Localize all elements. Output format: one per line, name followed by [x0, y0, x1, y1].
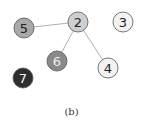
node-5: 5 — [14, 18, 34, 38]
node-label: 4 — [104, 61, 112, 76]
node-2: 2 — [68, 12, 88, 32]
graph-diagram: 523647 — [0, 0, 143, 122]
figure-caption: (b) — [0, 106, 143, 117]
node-label: 3 — [119, 15, 127, 30]
node-4: 4 — [98, 58, 118, 78]
node-3: 3 — [113, 12, 133, 32]
graph-nodes: 523647 — [13, 12, 133, 88]
node-7: 7 — [13, 68, 33, 88]
node-6: 6 — [47, 51, 67, 71]
node-label: 2 — [74, 15, 82, 30]
node-label: 7 — [19, 71, 27, 86]
node-label: 5 — [20, 21, 28, 36]
node-label: 6 — [53, 54, 61, 69]
